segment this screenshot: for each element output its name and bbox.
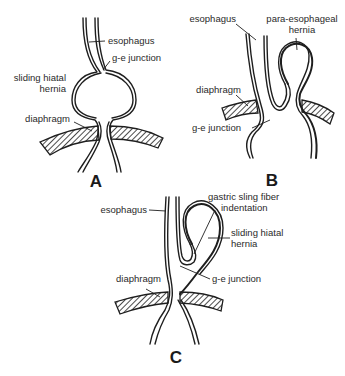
panel-a: esophagus g-e junction sliding hiatal he… — [14, 18, 163, 191]
panel-b: esophagus para-esophageal hernia diaphra… — [190, 13, 338, 190]
label-hernia-c-1: sliding hiatal — [231, 227, 283, 238]
hiatal-hernia-diagram: esophagus g-e junction sliding hiatal he… — [0, 0, 345, 376]
label-hernia-b-1: para-esophageal — [266, 13, 337, 24]
leader-esophagus-a — [89, 41, 105, 42]
leader-hernia-b — [296, 38, 297, 50]
label-diaphragm-b: diaphragm — [196, 84, 241, 95]
label-diaphragm-a: diaphragm — [25, 113, 70, 124]
esophagus-b — [246, 34, 317, 158]
label-hernia-c-2: hernia — [231, 238, 258, 249]
diaphragm-right-b — [302, 100, 334, 124]
diaphragm-right-a — [110, 126, 163, 148]
diaphragm-left-b — [222, 100, 258, 120]
label-esophagus-a: esophagus — [108, 35, 155, 46]
label-sling-c-2: indentation — [221, 202, 267, 213]
label-hernia-b-2: hernia — [289, 24, 316, 35]
label-diaphragm-c: diaphragm — [116, 273, 161, 284]
diaphragm-left-c — [115, 292, 168, 314]
leader-esophagus-c — [149, 210, 166, 211]
leader-sling-c — [194, 210, 215, 254]
panel-label-c: C — [170, 348, 182, 367]
label-ge-junction-a: g-e junction — [112, 52, 161, 63]
label-esophagus-c: esophagus — [101, 204, 148, 215]
panel-c: esophagus gastric sling fiber indentatio… — [101, 191, 284, 367]
label-ge-junction-c: g-e junction — [212, 273, 261, 284]
label-ge-junction-b: g-e junction — [192, 122, 241, 133]
label-sling-c-1: gastric sling fiber — [208, 191, 279, 202]
label-esophagus-b: esophagus — [190, 13, 237, 24]
panel-label-b: B — [266, 171, 278, 190]
esophagus-c — [150, 197, 223, 344]
label-hernia-a-2: hernia — [40, 83, 67, 94]
label-hernia-a-1: sliding hiatal — [14, 72, 66, 83]
panel-label-a: A — [90, 172, 102, 191]
